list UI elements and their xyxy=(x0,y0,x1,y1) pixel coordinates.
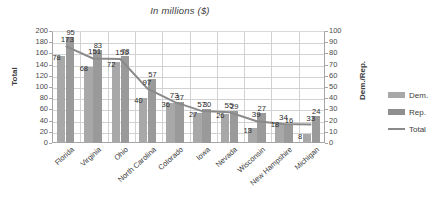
data-label-total-3: 97 xyxy=(143,79,152,87)
axis-tick-mark xyxy=(49,31,52,32)
data-label-total-8: 34 xyxy=(279,114,288,122)
y-tick-label-left: 120 xyxy=(22,72,48,80)
y-tick-label-right: 100 xyxy=(329,27,355,35)
y-axis-title-right: Dem./Rep. xyxy=(358,44,367,118)
axis-tick-mark xyxy=(49,53,52,54)
axis-tick-mark xyxy=(49,98,52,99)
legend-label-rep: Rep. xyxy=(409,108,426,117)
legend-item-dem[interactable]: Dem. xyxy=(388,88,446,102)
y-tick-label-left: 40 xyxy=(22,117,48,125)
y-tick-label-right: 60 xyxy=(329,72,355,80)
y-tick-label-left: 80 xyxy=(22,94,48,102)
axis-tick-mark xyxy=(49,76,52,77)
y-tick-label-left: 100 xyxy=(22,83,48,91)
legend-swatch-dem-icon xyxy=(388,92,405,98)
y-tick-label-left: 0 xyxy=(22,139,48,147)
axis-tick-mark xyxy=(325,65,328,66)
axis-tick-mark xyxy=(325,98,328,99)
legend-swatch-rep-icon xyxy=(388,109,405,115)
x-axis-category-labels: FloridaVirginiaOhioNorth CarolinaColorad… xyxy=(52,145,325,207)
y-tick-label-left: 180 xyxy=(22,38,48,46)
data-label-total-5: 57 xyxy=(197,101,206,109)
y-tick-label-left: 160 xyxy=(22,49,48,57)
y-tick-label-right: 20 xyxy=(329,117,355,125)
axis-tick-mark xyxy=(49,87,52,88)
chart-legend: Dem. Rep. Total xyxy=(388,88,446,139)
data-label-dem-3: 40 xyxy=(134,97,142,105)
y-tick-label-left: 200 xyxy=(22,27,48,35)
y-axis-left-ticks: 200180160140120100806040200 xyxy=(20,31,48,143)
data-label-total-2: 150 xyxy=(115,49,128,57)
axis-tick-mark xyxy=(49,143,52,144)
y-tick-label-right: 70 xyxy=(329,61,355,69)
legend-label-total: Total xyxy=(409,125,426,134)
axis-tick-mark xyxy=(325,53,328,54)
axis-tick-mark xyxy=(325,109,328,110)
axis-tick-mark xyxy=(325,132,328,133)
x-category-label-text: Florida xyxy=(53,145,76,167)
axis-tick-mark xyxy=(49,65,52,66)
chart-screenshot: In millions ($) Total Dem./Rep. 20018016… xyxy=(0,0,447,210)
chart-title: In millions ($) xyxy=(0,5,360,16)
x-category-label-text: Michigan xyxy=(293,145,321,172)
axis-tick-mark xyxy=(325,42,328,43)
x-category-label-text: Nevada xyxy=(214,145,239,169)
axis-tick-mark xyxy=(325,31,328,32)
data-label-total-1: 151 xyxy=(88,48,101,56)
axis-tick-mark xyxy=(325,121,328,122)
y-tick-label-right: 80 xyxy=(329,49,355,57)
axis-tick-mark xyxy=(49,132,52,133)
data-label-dem-0: 78 xyxy=(52,54,60,62)
x-category-label-text: Iowa xyxy=(194,145,212,162)
data-label-total-7: 39 xyxy=(252,111,261,119)
y-axis-title-left: Total xyxy=(10,47,19,107)
data-label-dem-6: 26 xyxy=(216,112,224,120)
y-tick-label-left: 140 xyxy=(22,61,48,69)
axis-tick-mark xyxy=(49,121,52,122)
axis-tick-mark xyxy=(325,143,328,144)
data-label-dem-4: 36 xyxy=(162,101,170,109)
data-label-total-0: 173 xyxy=(61,36,74,44)
data-label-total-6: 55 xyxy=(224,102,233,110)
data-label-dem-1: 68 xyxy=(80,65,88,73)
data-label-dem-8: 18 xyxy=(271,121,279,129)
y-tick-label-left: 60 xyxy=(22,105,48,113)
legend-label-dem: Dem. xyxy=(409,91,428,100)
legend-item-total[interactable]: Total xyxy=(388,122,446,136)
y-tick-label-right: 90 xyxy=(329,38,355,46)
axis-tick-mark xyxy=(325,87,328,88)
legend-swatch-total-icon xyxy=(388,128,405,130)
y-tick-label-right: 40 xyxy=(329,94,355,102)
x-category-label-text: Ohio xyxy=(112,145,130,162)
y-tick-label-right: 50 xyxy=(329,83,355,91)
x-category-label-text: Virginia xyxy=(78,145,103,168)
axis-tick-mark xyxy=(49,42,52,43)
y-axis-right-ticks: 1009080706050403020100 xyxy=(329,31,357,143)
y-tick-label-right: 30 xyxy=(329,105,355,113)
axis-tick-mark xyxy=(325,76,328,77)
axis-tick-mark xyxy=(49,109,52,110)
legend-item-rep[interactable]: Rep. xyxy=(388,105,446,119)
data-label-dem-2: 72 xyxy=(107,61,115,69)
y-tick-label-left: 20 xyxy=(22,128,48,136)
data-label-total-4: 73 xyxy=(170,92,179,100)
